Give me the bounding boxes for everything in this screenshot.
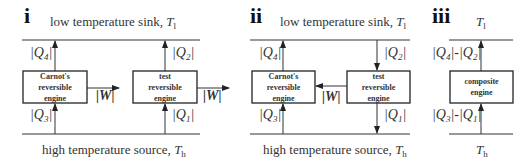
sink-label-ii: low temperature sink, Tl bbox=[280, 14, 406, 31]
sink-subscript: l bbox=[483, 21, 486, 31]
box-line: test bbox=[347, 71, 410, 82]
q4-label-i: |Q4| bbox=[30, 45, 52, 62]
sink-subscript: l bbox=[173, 21, 176, 31]
box-line: engine bbox=[252, 93, 315, 104]
work-label-ii: |W| bbox=[322, 89, 341, 105]
q4-label-ii: |Q4| bbox=[259, 45, 281, 62]
box-line: reversible bbox=[23, 82, 87, 93]
box-line: Carnot's bbox=[23, 71, 87, 82]
net-heat-from-source-label: |Q3|-|Q1| bbox=[432, 107, 481, 124]
source-text: high temperature source, bbox=[42, 142, 174, 157]
work-label-carnot-i: |W| bbox=[96, 88, 115, 104]
panel-label-iii: iii bbox=[432, 3, 450, 29]
carnot-engine-label-ii: Carnot's reversible engine bbox=[252, 71, 315, 103]
box-line: Carnot's bbox=[252, 71, 315, 82]
box-line: engine bbox=[23, 93, 87, 104]
box-line: engine bbox=[347, 93, 410, 104]
box-line: engine bbox=[133, 93, 197, 104]
test-engine-label-ii: test reversible engine bbox=[347, 71, 410, 103]
box-line: composite bbox=[450, 76, 513, 87]
carnot-engine-label-i: Carnot's reversible engine bbox=[23, 71, 87, 103]
q2-label-i: |Q2| bbox=[172, 45, 194, 62]
source-label-i: high temperature source, Th bbox=[42, 142, 186, 159]
source-text: high temperature source, bbox=[263, 142, 395, 157]
box-line: engine bbox=[450, 87, 513, 98]
q2-label-ii: |Q2| bbox=[384, 45, 406, 62]
sink-text: low temperature sink, bbox=[280, 14, 396, 29]
sink-label-i: low temperature sink, Tl bbox=[50, 14, 176, 31]
sink-label-iii: Tl bbox=[476, 14, 486, 31]
source-label-ii: high temperature source, Th bbox=[263, 142, 407, 159]
box-line: test bbox=[133, 71, 197, 82]
source-subscript: h bbox=[483, 149, 488, 159]
composite-engine-label: composite engine bbox=[450, 71, 513, 103]
source-subscript: h bbox=[181, 149, 186, 159]
sink-text: low temperature sink, bbox=[50, 14, 166, 29]
test-engine-label-i: test reversible engine bbox=[133, 71, 197, 103]
q1-label-ii: |Q1| bbox=[384, 107, 406, 124]
q3-label-i: |Q3| bbox=[30, 107, 52, 124]
panel-label-ii: ii bbox=[250, 3, 262, 29]
box-line: reversible bbox=[133, 82, 197, 93]
box-line: reversible bbox=[252, 82, 315, 93]
sink-subscript: l bbox=[403, 21, 406, 31]
q3-label-ii: |Q3| bbox=[259, 107, 281, 124]
panel-label-i: i bbox=[24, 3, 30, 29]
source-label-iii: Th bbox=[476, 142, 488, 159]
source-subscript: h bbox=[402, 149, 407, 159]
box-line: reversible bbox=[347, 82, 410, 93]
work-label-test-i: |W| bbox=[203, 88, 222, 104]
q1-label-i: |Q1| bbox=[172, 107, 194, 124]
net-heat-to-sink-label: |Q4|-|Q2| bbox=[432, 45, 481, 62]
